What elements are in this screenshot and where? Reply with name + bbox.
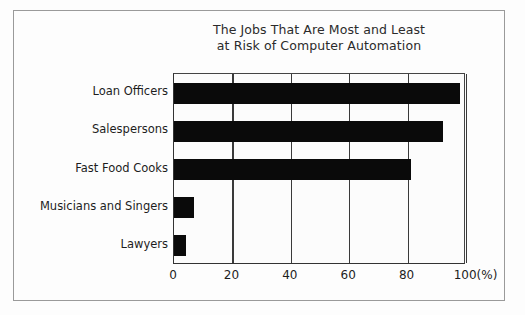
bar-salespersons [174, 121, 443, 142]
chart-title-line-1: The Jobs That Are Most and Least [173, 22, 465, 38]
bar-loan-officers [174, 83, 460, 104]
bar-musicians-and-singers [174, 197, 194, 218]
category-label-loan-officers: Loan Officers [8, 85, 168, 98]
gridline-100 [466, 74, 467, 263]
x-tick-label-100: 100(%) [454, 268, 498, 282]
x-tick-label-80: 80 [399, 268, 414, 282]
bar-row [174, 189, 194, 227]
category-label-fast-food-cooks: Fast Food Cooks [8, 162, 168, 175]
category-label-musicians-and-singers: Musicians and Singers [8, 200, 168, 213]
category-label-salespersons: Salespersons [8, 123, 168, 136]
bar-fast-food-cooks [174, 159, 411, 180]
category-axis-labels: Loan OfficersSalespersonsFast Food Cooks… [5, 73, 168, 264]
bar-row [174, 74, 460, 112]
x-tick-label-0: 0 [169, 268, 177, 282]
bar-series [174, 74, 464, 263]
x-tick-label-40: 40 [282, 268, 297, 282]
bar-lawyers [174, 235, 186, 256]
x-tick-label-60: 60 [341, 268, 356, 282]
category-label-lawyers: Lawyers [8, 238, 168, 251]
bar-row [174, 112, 443, 150]
x-tick-label-20: 20 [224, 268, 239, 282]
bar-row [174, 150, 411, 188]
chart-title-line-2: at Risk of Computer Automation [173, 38, 465, 54]
bar-row [174, 227, 186, 265]
chart-figure: The Jobs That Are Most and Least at Risk… [0, 0, 525, 315]
chart-title: The Jobs That Are Most and Least at Risk… [173, 22, 465, 54]
plot-area [173, 73, 465, 264]
x-axis-tick-labels: 020406080100(%) [173, 266, 503, 288]
